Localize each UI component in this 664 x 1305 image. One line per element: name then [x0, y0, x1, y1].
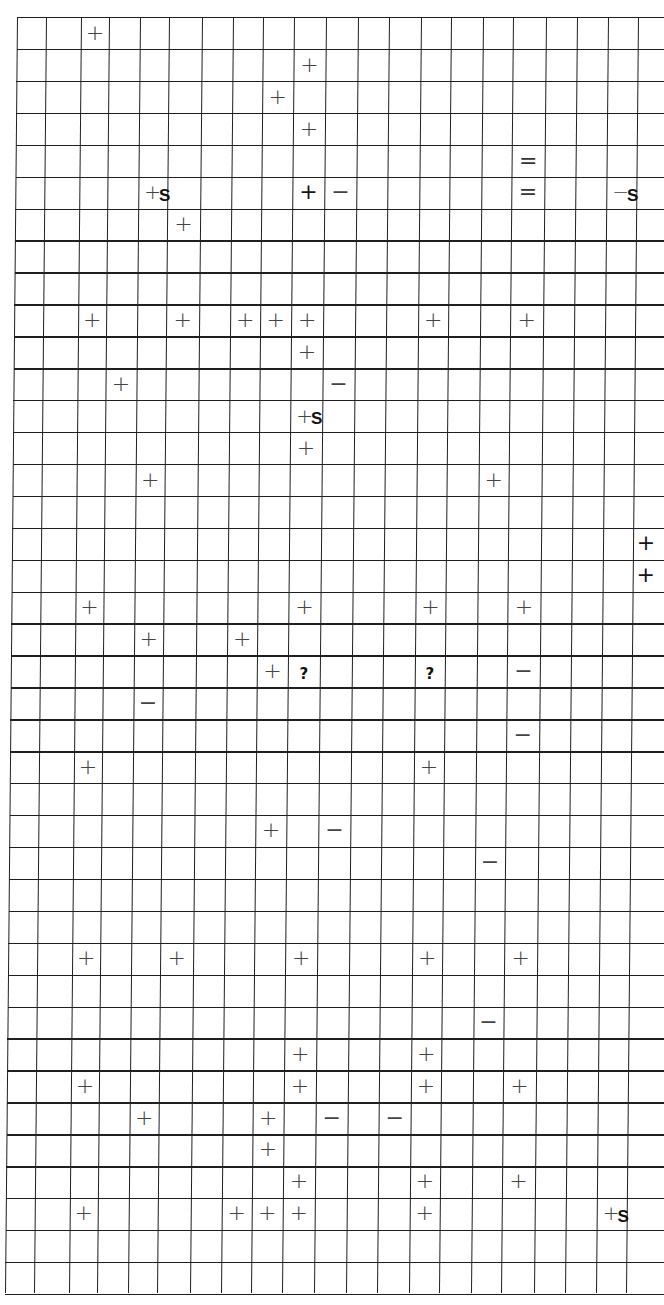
mark-glyph: − [331, 181, 349, 203]
mark-glyph: = [519, 181, 537, 203]
mark-glyph: + [517, 309, 535, 331]
mark-glyph: + [420, 756, 438, 778]
plus-mark: + [71, 1070, 99, 1102]
mark-glyph: + [167, 947, 185, 969]
mark-glyph: ? [425, 667, 434, 682]
plus-mark: + [284, 1070, 316, 1102]
mark-glyph: + [173, 309, 191, 331]
mark-glyph: − [514, 724, 532, 746]
grid-row-line [7, 1038, 664, 1039]
grid-row-line [8, 1007, 664, 1008]
mark-glyph: + [259, 1107, 277, 1129]
mark-glyph: + [83, 309, 101, 331]
mark-glyph: = [519, 150, 537, 172]
plus-mark: + [130, 1102, 159, 1134]
plus-mark: + [415, 591, 445, 623]
mark-glyph: + [295, 596, 313, 618]
mark-glyph: + [510, 1075, 528, 1097]
plus-mark: + [283, 1197, 315, 1229]
plus-mark: + [412, 942, 442, 974]
grid-row-line [13, 496, 664, 497]
minus-mark: − [324, 177, 356, 209]
plus-mark: + [410, 1197, 440, 1229]
plus-mark: + [410, 1165, 440, 1197]
grid-row-line [10, 751, 664, 752]
grid-row-line [6, 1230, 664, 1231]
plus-s-mark: +S [290, 400, 322, 432]
grid-row-line [17, 49, 664, 50]
mark-glyph: − [322, 1107, 340, 1129]
mark-glyph: + [300, 118, 318, 140]
mark-glyph: − [385, 1107, 403, 1129]
plus-mark: + [510, 304, 543, 336]
plus-mark: + [507, 591, 540, 623]
mark-glyph: + [298, 309, 316, 331]
grid-row-line [8, 975, 664, 976]
grid-row-line [16, 113, 664, 114]
minus-mark: − [379, 1102, 411, 1134]
plus-mark: + [167, 208, 200, 240]
plus-mark: + [252, 1197, 283, 1229]
question-mark: ? [288, 655, 320, 691]
mark-glyph: − [514, 660, 532, 682]
grid-row-line [15, 240, 664, 241]
mark-glyph: + [86, 22, 104, 44]
mark-glyph: + [424, 309, 442, 331]
grid-row-line [9, 879, 664, 880]
grid-row-line [14, 304, 664, 305]
grid-row-line [13, 432, 664, 433]
mark-glyph: + [416, 1202, 434, 1224]
grid-row-line [13, 464, 664, 465]
mark-glyph: + [139, 628, 157, 650]
grid-row-line [11, 623, 664, 624]
mark-glyph: + [174, 213, 192, 235]
grid-row-line [12, 528, 664, 529]
plus-mark: + [283, 1165, 315, 1197]
minus-mark: − [507, 655, 540, 687]
plus-s-mark: +S [597, 1197, 627, 1229]
mark-glyph: + [637, 532, 655, 554]
grid-row-line [7, 1070, 664, 1071]
mark-glyph: + [228, 1202, 246, 1224]
plus-mark: + [257, 655, 288, 687]
mark-glyph: + [416, 1170, 434, 1192]
grid-row-line [5, 1294, 664, 1295]
mark-glyph: − [139, 692, 157, 714]
grid-row-line [13, 400, 664, 401]
plus-s-mark: +S [138, 177, 167, 209]
plus-mark: + [291, 304, 323, 336]
equals-mark: = [512, 145, 545, 177]
mark-glyph: + [141, 469, 159, 491]
plus-mark: + [166, 304, 199, 336]
plus-mark: + [633, 559, 659, 591]
mark-suffix-s: S [159, 187, 170, 204]
mark-glyph: ? [299, 667, 308, 682]
plus-mark: + [288, 591, 320, 623]
mark-glyph: + [262, 819, 280, 841]
plus-mark: + [479, 464, 509, 496]
plus-mark: + [253, 1102, 284, 1134]
plus-mark: + [418, 304, 448, 336]
plus-mark: + [255, 815, 286, 847]
mark-glyph: + [112, 373, 130, 395]
plus-mark: + [136, 464, 165, 496]
minus-mark: − [475, 846, 505, 878]
mark-glyph: − [479, 1011, 497, 1033]
mark-glyph: + [291, 1043, 309, 1065]
plus-mark: + [502, 1165, 535, 1197]
grid-row-line [8, 943, 664, 944]
plus-mark: + [72, 942, 100, 974]
mark-glyph: + [263, 660, 281, 682]
plus-mark: + [633, 527, 659, 559]
mark-suffix-s: S [627, 187, 638, 204]
grid-row-line [11, 687, 664, 688]
grid-row-line [5, 1262, 664, 1263]
grid-row-line [15, 209, 664, 210]
minus-mark: − [318, 815, 350, 847]
grid-worksheet: ++++=+S+−=−S++++++++++−+S++++++++++++??−… [0, 0, 664, 1305]
minus-mark: − [506, 719, 539, 751]
plus-mark: + [230, 304, 260, 336]
mark-glyph: + [291, 1075, 309, 1097]
mark-glyph: + [421, 596, 439, 618]
mark-glyph: + [258, 1202, 276, 1224]
